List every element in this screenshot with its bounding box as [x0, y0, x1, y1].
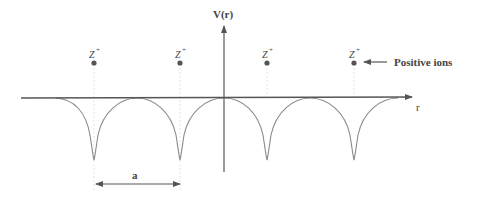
ion-charge: + [96, 46, 100, 54]
ion-1: Z + [89, 46, 100, 66]
ion-label: Z [89, 49, 95, 60]
ion-dot [91, 60, 96, 65]
potential-curve [56, 98, 398, 160]
r-axis [21, 97, 412, 98]
annotation-label: Positive ions [394, 56, 453, 68]
ion-dot [264, 60, 269, 65]
v-axis-label: V(r) [213, 8, 233, 21]
ion-charge: + [269, 46, 273, 54]
ion-dot [351, 60, 356, 65]
ion-label: Z [349, 49, 355, 60]
ion-charge: + [356, 46, 360, 54]
spacing-label: a [132, 169, 138, 181]
ion-charge: + [182, 46, 186, 54]
ion-2: Z + [175, 46, 186, 66]
ion-3: Z + [262, 46, 273, 66]
ion-4: Z + [349, 46, 360, 66]
potential-diagram: r V(r) Z + Z + Z + Z + Positive ions a [0, 0, 483, 204]
ion-label: Z [262, 49, 268, 60]
r-axis-label: r [416, 101, 420, 113]
ion-label: Z [175, 49, 181, 60]
ion-dot [177, 60, 182, 65]
